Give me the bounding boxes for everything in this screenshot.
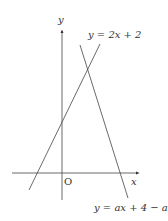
line2-label: y = ax + 4 − a: [93, 202, 168, 213]
coordinate-diagram: y x O y = 2x + 2 y = ax + 4 − a: [0, 0, 168, 221]
line1-label: y = 2x + 2: [87, 29, 142, 40]
line-ax-plus-4-minus-a: [80, 45, 128, 198]
line-2x-plus-2: [29, 44, 100, 190]
y-axis-label: y: [57, 14, 64, 25]
x-axis-label: x: [131, 176, 137, 187]
origin-label: O: [64, 176, 72, 187]
